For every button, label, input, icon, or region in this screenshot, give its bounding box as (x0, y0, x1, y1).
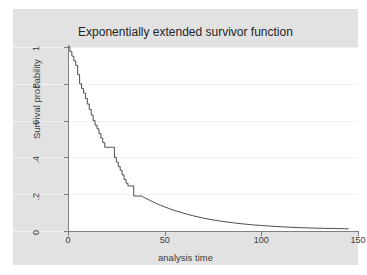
survivor-function-curve (13, 9, 358, 265)
graph-region: Exponentially extended survivor function… (13, 9, 358, 265)
exponential-tail-path (141, 196, 348, 229)
chart-screenshot: Exponentially extended survivor function… (0, 0, 367, 275)
km-step-path (68, 47, 141, 196)
